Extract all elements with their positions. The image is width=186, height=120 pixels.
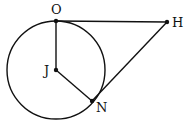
geometry-diagram: O H J N — [0, 0, 186, 120]
point-o — [54, 19, 58, 23]
label-o: O — [51, 2, 62, 17]
label-n: N — [96, 100, 107, 115]
label-j: J — [42, 63, 49, 78]
segment-nh — [92, 22, 167, 101]
point-n — [90, 99, 94, 103]
label-h: H — [172, 15, 183, 30]
segment-jn — [56, 70, 92, 101]
point-h — [165, 20, 169, 24]
segment-oh — [56, 21, 167, 22]
point-j — [54, 68, 58, 72]
